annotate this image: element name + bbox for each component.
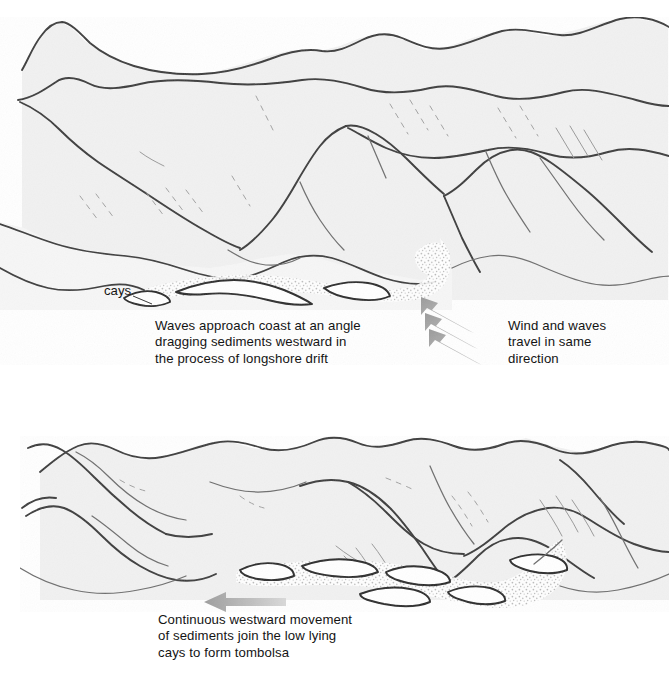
wind-caption: Wind and waves travel in same direction bbox=[508, 318, 606, 367]
bottom-panel-landscape bbox=[20, 436, 669, 612]
waves-caption: Waves approach coast at an angle draggin… bbox=[155, 318, 361, 367]
tombolo-formation-figure: cays Waves approach coast at an angle dr… bbox=[0, 0, 671, 677]
cays-label: cays bbox=[104, 283, 131, 298]
tombolo-caption: Continuous westward movement of sediment… bbox=[158, 612, 352, 661]
top-panel-landscape bbox=[0, 17, 669, 365]
